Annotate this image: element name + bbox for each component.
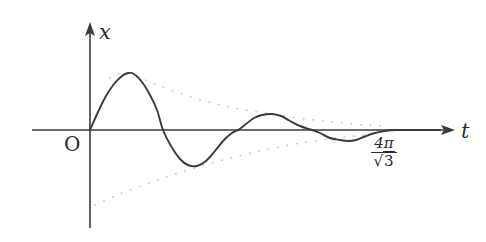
tick-numerator: 4π (372, 136, 395, 152)
x-axis-label: t (461, 121, 469, 142)
lower-envelope-curve (95, 134, 375, 205)
figure-root: x t O 4π √3 (0, 0, 486, 242)
plot-canvas (0, 0, 486, 242)
origin-label: O (64, 134, 80, 154)
x-axis (85, 22, 95, 228)
tick-denominator-value: 3 (383, 151, 395, 170)
x-axis-tick-label: 4π √3 (371, 136, 397, 170)
radical-icon: √ (373, 152, 383, 170)
tick-denominator: √3 (371, 153, 396, 169)
y-axis-label: x (99, 22, 111, 43)
